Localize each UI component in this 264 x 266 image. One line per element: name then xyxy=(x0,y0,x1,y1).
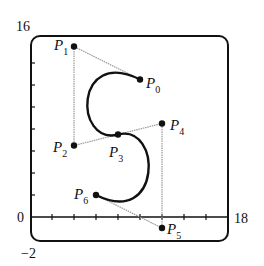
point-p0 xyxy=(137,76,143,82)
point-p3 xyxy=(115,131,121,137)
label-p3: P3 xyxy=(108,144,123,164)
label-p4: P4 xyxy=(169,117,184,137)
point-p2 xyxy=(71,142,77,148)
label-p6: P6 xyxy=(73,186,88,206)
label-p0: P0 xyxy=(145,75,160,95)
y-min-label: −2 xyxy=(21,246,36,261)
point-p4 xyxy=(159,120,165,126)
bezier-diagram: 16 0 −2 18 P0 P1 P2 P3 P4 P5 P6 xyxy=(0,0,264,266)
y-origin-label: 0 xyxy=(17,210,24,225)
point-p1 xyxy=(71,43,77,49)
y-max-label: 16 xyxy=(16,19,30,34)
point-p6 xyxy=(93,192,99,198)
x-max-label: 18 xyxy=(234,211,248,226)
label-p1: P1 xyxy=(53,37,68,57)
label-p2: P2 xyxy=(52,139,67,159)
point-p5 xyxy=(159,225,165,231)
label-p5: P5 xyxy=(166,221,181,241)
